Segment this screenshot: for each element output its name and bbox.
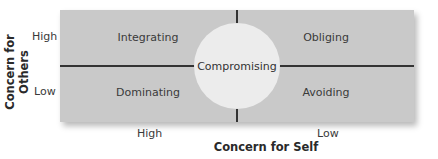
y-tick-low: Low — [34, 85, 56, 98]
x-tick-low: Low — [317, 127, 339, 140]
y-tick-high: High — [32, 30, 57, 43]
compromising-circle: Compromising — [194, 23, 280, 109]
x-axis-title: Concern for Self — [176, 140, 356, 154]
quadrant-avoiding: Avoiding — [266, 86, 386, 99]
quadrant-dominating: Dominating — [88, 86, 208, 99]
quadrant-obliging: Obliging — [266, 31, 386, 44]
center-label: Compromising — [197, 60, 277, 73]
y-axis-title: Concern for Others — [3, 12, 31, 132]
quadrant-integrating: Integrating — [88, 31, 208, 44]
x-tick-high: High — [137, 127, 162, 140]
